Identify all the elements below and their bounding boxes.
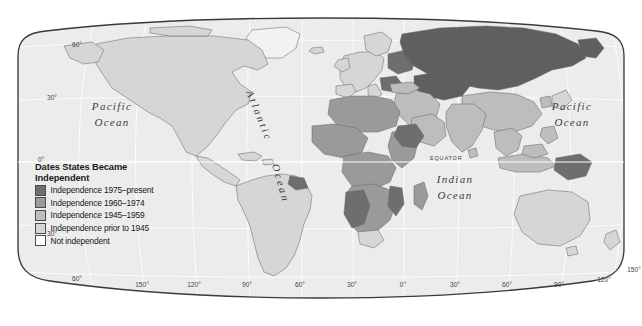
legend-item-1945-1959[interactable]: Independence 1945–1959 (35, 210, 187, 221)
legend-label-prior-1945: Independence prior to 1945 (51, 223, 150, 233)
lon-label-90e: 90° (554, 281, 564, 288)
region-korea (540, 96, 552, 108)
lat-label-60s: 60° (72, 275, 82, 282)
ocean-label-pacific-east-line1: Pacific (551, 100, 592, 112)
legend-item-1960-1974[interactable]: Independence 1960–1974 (35, 197, 187, 208)
equator-label: EQUATOR (430, 155, 462, 161)
lon-label-150e: 150° (627, 266, 641, 273)
legend-label-1945-1959: Independence 1945–1959 (51, 210, 145, 220)
legend-title-line1: Dates States Became (35, 162, 127, 172)
lon-label-0: 0° (400, 281, 407, 288)
legend-swatch-prior-1945 (35, 223, 46, 234)
legend-label-1960-1974: Independence 1960–1974 (51, 198, 145, 208)
lon-label-60w: 60° (295, 281, 305, 288)
country-sri-lanka (468, 148, 478, 158)
lon-label-60e: 60° (502, 281, 512, 288)
lon-label-150w: 150° (135, 281, 149, 288)
ocean-label-pacific-west-line1: Pacific (91, 100, 132, 112)
ocean-label-indian-line2: Ocean (437, 189, 472, 201)
legend-label-1975-present: Independence 1975–present (51, 185, 154, 195)
lon-label-30w: 30° (347, 281, 357, 288)
ocean-label-pacific-west-line2: Ocean (94, 116, 129, 128)
legend-label-not-independent: Not independent (51, 236, 110, 246)
lon-label-120w: 120° (187, 281, 201, 288)
island-tasmania (566, 246, 578, 256)
legend-title: Dates States Became Independent (35, 162, 187, 183)
legend-swatch-1960-1974 (35, 197, 46, 208)
map-legend: Dates States Became Independent Independ… (32, 160, 189, 248)
lon-label-30e: 30° (450, 281, 460, 288)
legend-title-line2: Independent (35, 173, 89, 183)
world-map-figure: Pacific Ocean Pacific Ocean Indian Ocean… (0, 0, 642, 326)
lon-label-90w: 90° (242, 281, 252, 288)
legend-swatch-not-independent (35, 235, 46, 246)
legend-item-1975-present[interactable]: Independence 1975–present (35, 185, 187, 196)
lat-label-30n: 30° (47, 94, 57, 101)
ocean-label-indian-line1: Indian (436, 173, 474, 185)
ocean-label-pacific-east-line2: Ocean (554, 116, 589, 128)
lon-label-120e: 120° (597, 276, 611, 283)
legend-item-prior-1945[interactable]: Independence prior to 1945 (35, 223, 187, 234)
legend-swatch-1975-present (35, 185, 46, 196)
legend-item-not-independent[interactable]: Not independent (35, 235, 187, 246)
lat-label-60n: 60° (72, 41, 82, 48)
legend-swatch-1945-1959 (35, 210, 46, 221)
